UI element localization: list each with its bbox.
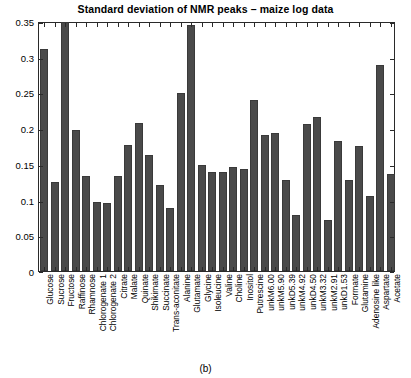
bar	[166, 208, 174, 271]
x-tick-label: unkM4.92	[298, 274, 306, 311]
x-tick-mark	[328, 267, 329, 271]
x-tick-mark	[160, 23, 161, 27]
y-tick-mark	[39, 94, 43, 95]
x-tick-mark	[307, 267, 308, 271]
x-tick-mark	[149, 267, 150, 271]
x-tick-mark	[170, 23, 171, 27]
bar	[51, 182, 59, 271]
x-tick-mark	[338, 23, 339, 27]
x-tick-mark	[76, 23, 77, 27]
x-tick-label: Glycine	[204, 274, 212, 302]
x-tick-mark	[359, 23, 360, 27]
figure-caption: (b)	[0, 363, 411, 374]
chart-title: Standard deviation of NMR peaks – maize …	[0, 3, 411, 15]
x-tick-mark	[296, 23, 297, 27]
bar	[271, 133, 279, 271]
bar	[145, 155, 153, 271]
x-tick-mark	[202, 23, 203, 27]
x-tick-mark	[370, 23, 371, 27]
y-tick-mark	[39, 166, 43, 167]
x-tick-mark	[55, 267, 56, 271]
x-tick-mark	[254, 23, 255, 27]
bar	[313, 117, 321, 271]
x-tick-mark	[160, 267, 161, 271]
x-tick-mark	[338, 267, 339, 271]
x-tick-label: Chlorogenate 2	[109, 274, 117, 331]
x-tick-mark	[223, 23, 224, 27]
x-tick-label: unkM3.32	[319, 274, 327, 311]
x-tick-label: Trans-aconitate	[172, 274, 180, 332]
x-tick-mark	[223, 267, 224, 271]
x-tick-label: Putrescine	[256, 274, 264, 314]
x-tick-mark	[107, 267, 108, 271]
y-tick-mark	[390, 272, 394, 273]
x-tick-mark	[265, 23, 266, 27]
x-tick-mark	[149, 23, 150, 27]
x-tick-label: Inositol	[246, 274, 254, 301]
x-tick-label: Alanine	[183, 274, 191, 302]
bar	[292, 215, 300, 271]
y-tick-mark	[39, 237, 43, 238]
x-tick-mark	[191, 267, 192, 271]
x-tick-label: Adenosine like	[372, 274, 380, 328]
y-axis: 00.050.10.150.20.250.30.35	[0, 22, 34, 272]
y-tick-mark	[39, 272, 43, 273]
bar	[198, 165, 206, 271]
bar	[303, 124, 311, 271]
x-tick-mark	[380, 267, 381, 271]
x-tick-mark	[244, 23, 245, 27]
x-tick-mark	[170, 267, 171, 271]
y-tick-label: 0.2	[21, 124, 34, 135]
x-tick-mark	[97, 23, 98, 27]
x-tick-mark	[265, 267, 266, 271]
x-tick-label: Acetate	[393, 274, 401, 302]
x-tick-label: Succinate	[162, 274, 170, 311]
bar	[82, 176, 90, 271]
y-tick-mark	[390, 130, 394, 131]
x-tick-label: Citrate	[120, 274, 128, 299]
bar	[208, 172, 216, 271]
x-tick-label: Sucrose	[57, 274, 65, 305]
x-tick-label: Fructose	[67, 274, 75, 307]
x-tick-label: Glutamine	[361, 274, 369, 312]
bar	[261, 135, 269, 271]
x-tick-mark	[328, 23, 329, 27]
x-tick-mark	[233, 23, 234, 27]
bar	[114, 176, 122, 271]
x-tick-mark	[275, 23, 276, 27]
x-tick-mark	[244, 267, 245, 271]
y-tick-label: 0.05	[16, 231, 35, 242]
x-tick-mark	[55, 23, 56, 27]
x-tick-label: Isoleucine	[214, 274, 222, 312]
x-tick-mark	[181, 23, 182, 27]
x-tick-mark	[212, 267, 213, 271]
y-tick-label: 0.25	[16, 88, 35, 99]
bar	[250, 100, 258, 271]
bar	[355, 146, 363, 271]
x-tick-mark	[391, 267, 392, 271]
x-tick-mark	[370, 267, 371, 271]
x-tick-label: unkM5.90	[277, 274, 285, 311]
x-tick-label: Rhamnose	[88, 274, 96, 315]
x-tick-mark	[65, 23, 66, 27]
x-tick-mark	[296, 267, 297, 271]
x-tick-mark	[359, 267, 360, 271]
y-tick-mark	[390, 59, 394, 60]
y-tick-label: 0.15	[16, 159, 35, 170]
x-tick-mark	[128, 23, 129, 27]
bar	[219, 172, 227, 271]
x-tick-label: Aspartate	[382, 274, 390, 310]
x-tick-mark	[380, 23, 381, 27]
x-tick-mark	[118, 23, 119, 27]
x-tick-label: unkD5.39	[288, 274, 296, 310]
bar	[366, 196, 374, 271]
x-tick-mark	[307, 23, 308, 27]
bar	[177, 93, 185, 271]
x-tick-mark	[107, 23, 108, 27]
y-tick-label: 0.3	[21, 52, 34, 63]
x-tick-mark	[139, 267, 140, 271]
y-tick-label: 0.35	[16, 17, 35, 28]
x-tick-mark	[254, 267, 255, 271]
x-tick-mark	[349, 23, 350, 27]
x-tick-mark	[317, 23, 318, 27]
